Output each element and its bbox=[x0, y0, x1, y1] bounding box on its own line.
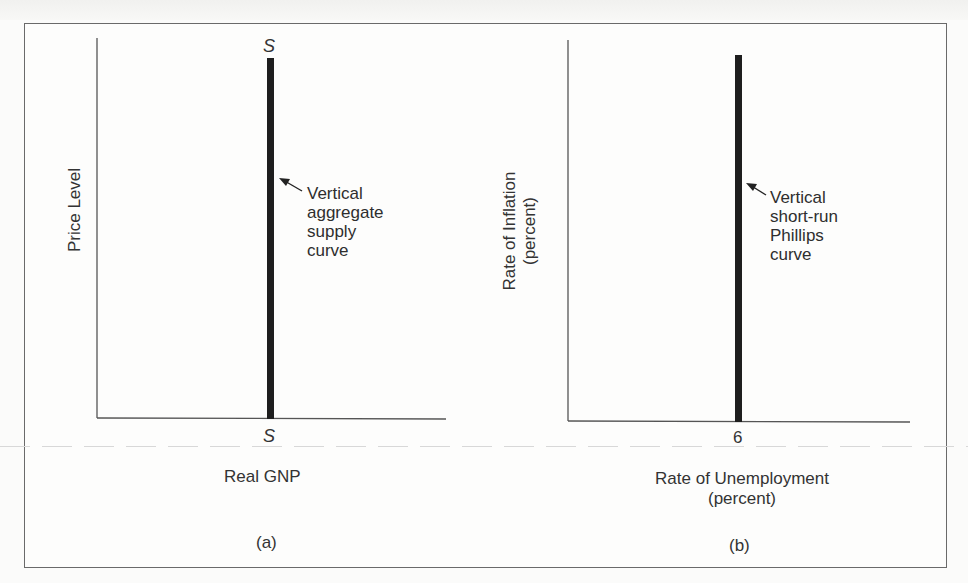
annotation-line: aggregate bbox=[307, 203, 384, 222]
annotation-line: Vertical bbox=[770, 188, 838, 207]
annotation-line: curve bbox=[770, 245, 838, 264]
annotation-line: supply bbox=[307, 222, 384, 241]
y-label-line: (percent) bbox=[520, 151, 540, 311]
panel-a-annotation: Vertical aggregate supply curve bbox=[307, 184, 384, 260]
panel-a-arrowhead-icon bbox=[279, 178, 290, 186]
y-label-line: Rate of Inflation bbox=[500, 151, 520, 311]
annotation-line: curve bbox=[307, 241, 384, 260]
annotation-line: Phillips bbox=[770, 226, 838, 245]
panel-b-x-axis-label: Rate of Unemployment (percent) bbox=[628, 469, 856, 509]
panel-b-arrowhead-icon bbox=[746, 183, 757, 191]
x-label-line: Rate of Unemployment bbox=[628, 469, 856, 489]
vertical-phillips-curve bbox=[735, 55, 742, 422]
x-label-line: (percent) bbox=[628, 489, 856, 509]
panel-b-y-axis-label: Rate of Inflation (percent) bbox=[500, 151, 540, 311]
panel-a-y-axis-label: Price Level bbox=[65, 155, 85, 265]
panel-b-annotation: Vertical short-run Phillips curve bbox=[770, 188, 838, 264]
panel-b-x-tick-6: 6 bbox=[733, 428, 742, 448]
panel-b-caption: (b) bbox=[729, 536, 750, 556]
panel-a-caption: (a) bbox=[256, 533, 277, 553]
vertical-aggregate-supply-curve bbox=[267, 58, 274, 419]
panel-a-x-axis-label: Real GNP bbox=[224, 467, 301, 487]
panel-a-curve-top-label: S bbox=[263, 36, 275, 57]
annotation-line: short-run bbox=[770, 207, 838, 226]
annotation-line: Vertical bbox=[307, 184, 384, 203]
panel-a-curve-bottom-label: S bbox=[263, 426, 275, 447]
